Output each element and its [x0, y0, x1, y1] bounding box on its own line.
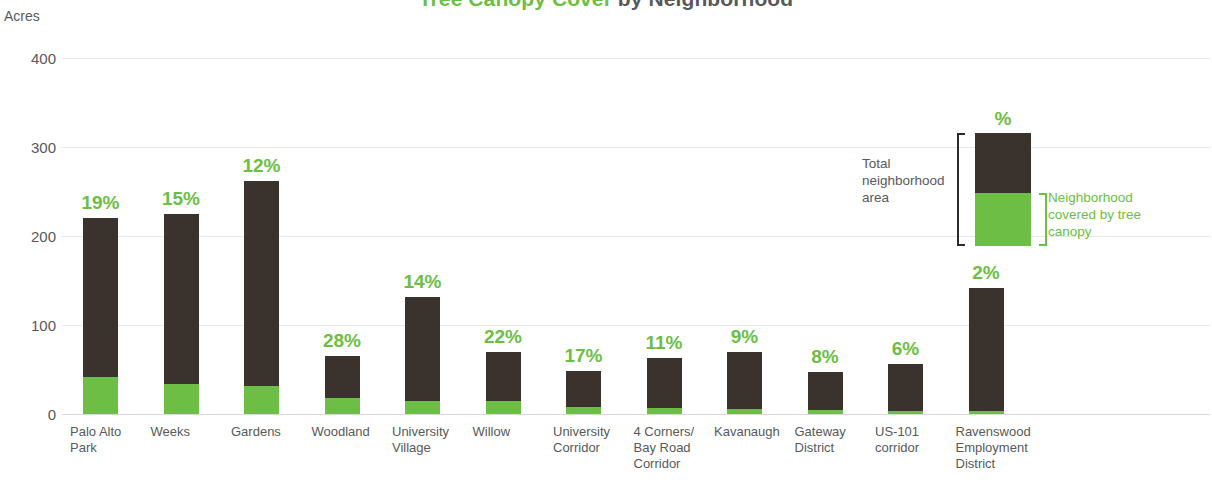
- bar-segment-tree-canopy[interactable]: [83, 377, 118, 414]
- bar-group[interactable]: 2%: [969, 288, 1004, 414]
- bar-segment-tree-canopy[interactable]: [888, 411, 923, 414]
- bar-group[interactable]: 6%: [888, 364, 923, 414]
- x-axis-category-label: Weeks: [151, 424, 218, 440]
- bar-group[interactable]: 19%: [83, 218, 118, 414]
- bar-segment-total-area[interactable]: [405, 297, 440, 414]
- x-axis-category-label: Palo Alto Park: [70, 424, 137, 456]
- bar-percent-label: 28%: [282, 330, 402, 352]
- bar-segment-tree-canopy[interactable]: [405, 401, 440, 414]
- bar-segment-tree-canopy[interactable]: [727, 409, 762, 414]
- bar-percent-label: 15%: [121, 188, 241, 210]
- bar-group[interactable]: 8%: [808, 372, 843, 414]
- x-axis-category-label: University Corridor: [553, 424, 620, 456]
- legend-bracket-total: [957, 133, 966, 246]
- bar-segment-tree-canopy[interactable]: [808, 410, 843, 414]
- bar-segment-total-area[interactable]: [244, 181, 279, 414]
- legend-label-total-area: Total neighborhood area: [862, 155, 954, 206]
- x-axis-category-label: University Village: [392, 424, 459, 456]
- bar-segment-total-area[interactable]: [647, 358, 682, 414]
- legend-sample-bar-total: [975, 133, 1031, 193]
- x-axis-category-label: Willow: [473, 424, 540, 440]
- x-axis-category-label: Ravenswood Employment District: [956, 424, 1023, 472]
- bar-percent-label: 9%: [685, 326, 805, 348]
- bar-segment-tree-canopy[interactable]: [566, 407, 601, 414]
- legend-sample-bar-canopy: [975, 193, 1031, 246]
- x-axis-category-label: Kavanaugh: [714, 424, 781, 440]
- x-axis-category-label: US-101 corridor: [875, 424, 942, 456]
- bar-segment-tree-canopy[interactable]: [244, 386, 279, 414]
- bar-segment-total-area[interactable]: [808, 372, 843, 414]
- chart-legend: % Total neighborhood area Neighborhood c…: [862, 105, 1162, 255]
- bar-segment-total-area[interactable]: [969, 288, 1004, 414]
- bar-segment-total-area[interactable]: [888, 364, 923, 414]
- bar-segment-tree-canopy[interactable]: [325, 398, 360, 414]
- legend-percent-label: %: [975, 108, 1031, 130]
- bar-percent-label: 14%: [363, 271, 483, 293]
- x-axis-category-label: Gateway District: [795, 424, 862, 456]
- bar-group[interactable]: 14%: [405, 297, 440, 414]
- x-axis-category-label: Woodland: [312, 424, 379, 440]
- bar-segment-total-area[interactable]: [727, 352, 762, 414]
- bar-percent-label: 6%: [846, 338, 966, 360]
- chart-root: Tree Canopy Cover by Neighborhood Acres …: [0, 0, 1212, 487]
- bar-percent-label: 12%: [202, 155, 322, 177]
- bar-segment-tree-canopy[interactable]: [486, 401, 521, 414]
- bar-group[interactable]: 15%: [164, 214, 199, 414]
- bar-group[interactable]: 11%: [647, 358, 682, 414]
- bar-group[interactable]: 12%: [244, 181, 279, 414]
- x-axis-category-label: 4 Corners/ Bay Road Corridor: [634, 424, 701, 472]
- bar-segment-tree-canopy[interactable]: [969, 411, 1004, 414]
- bar-group[interactable]: 17%: [566, 371, 601, 414]
- bar-group[interactable]: 28%: [325, 356, 360, 414]
- x-axis-category-label: Gardens: [231, 424, 298, 440]
- bar-percent-label: 2%: [926, 262, 1046, 284]
- legend-bracket-canopy: [1038, 193, 1047, 246]
- legend-sample-bar: [975, 133, 1031, 246]
- bar-group[interactable]: 9%: [727, 352, 762, 414]
- bar-group[interactable]: 22%: [486, 352, 521, 414]
- bar-segment-tree-canopy[interactable]: [647, 408, 682, 414]
- bar-segment-tree-canopy[interactable]: [164, 384, 199, 414]
- legend-label-canopy: Neighborhood covered by tree canopy: [1048, 189, 1158, 240]
